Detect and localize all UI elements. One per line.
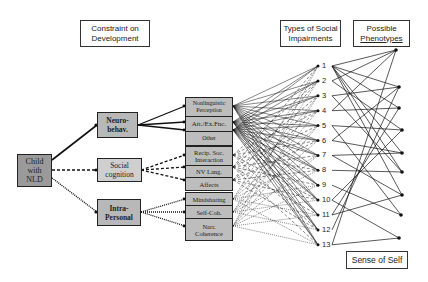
constraint-line: Neuro- bbox=[106, 116, 128, 125]
root-line: NLD bbox=[26, 175, 42, 184]
header-possible-phenotypes: Possible Phenotypes bbox=[353, 20, 410, 47]
subdomain-line: Perception bbox=[186, 107, 232, 114]
impairment-number: 6 bbox=[322, 136, 326, 145]
impairment-number: 12 bbox=[322, 225, 330, 234]
subdomain-recip-soc-interaction: Recip. Soc. Interaction bbox=[186, 147, 232, 166]
neuro-subdomain-group: Nonlinguistic Perception Att./Ex.Fnc. Ot… bbox=[185, 97, 233, 146]
impairment-number: 5 bbox=[322, 121, 326, 130]
impairment-number: 3 bbox=[322, 91, 326, 100]
subdomain-line: Interaction bbox=[186, 156, 232, 163]
header-line: Types of Social bbox=[281, 24, 340, 34]
subdomain-line: Other bbox=[186, 135, 232, 142]
subdomain-self-coh: Self-Coh. bbox=[186, 206, 232, 219]
subdomain-line: Coherence bbox=[186, 230, 232, 237]
constraint-line: Personal bbox=[105, 213, 133, 222]
child-with-nld-box: Child with NLD bbox=[17, 154, 52, 187]
header-line: Impairments bbox=[281, 34, 340, 44]
subdomain-other: Other bbox=[186, 132, 232, 145]
neuro-behav-box: Neuro- behav. bbox=[97, 112, 138, 138]
subdomain-att-ex-fnc: Att./Ex.Fnc. bbox=[186, 117, 232, 132]
social-subdomain-group: Recip. Soc. Interaction NV Lang. Affects bbox=[185, 146, 233, 191]
impairment-number: 7 bbox=[322, 150, 326, 159]
sense-of-self-label: Sense of Self bbox=[347, 255, 407, 265]
social-cognition-box: Social cognition bbox=[97, 158, 142, 182]
header-types-of-social-impairments: Types of Social Impairments bbox=[280, 20, 341, 47]
subdomain-line: Mindsharing bbox=[186, 196, 232, 203]
header-constraint-on-development: Constraint on Development bbox=[80, 20, 150, 47]
subdomain-affects: Affects bbox=[186, 178, 232, 190]
impairment-number: 13 bbox=[322, 240, 330, 249]
constraint-line: behav. bbox=[107, 125, 128, 134]
subdomain-nonlinguistic-perception: Nonlinguistic Perception bbox=[186, 98, 232, 117]
header-line: Development bbox=[81, 34, 149, 44]
subdomain-mindsharing: Mindsharing bbox=[186, 193, 232, 206]
intra-subdomain-group: Mindsharing Self-Coh. Narr. Coherence bbox=[185, 192, 233, 241]
subdomain-line: Self-Coh. bbox=[186, 209, 232, 216]
intra-personal-box: Intra- Personal bbox=[97, 199, 141, 226]
constraint-line: cognition bbox=[105, 170, 133, 179]
constraint-line: Intra- bbox=[109, 204, 128, 213]
root-line: Child bbox=[26, 157, 44, 166]
impairment-number: 11 bbox=[322, 210, 330, 219]
sense-of-self-box: Sense of Self bbox=[346, 251, 408, 269]
subdomain-nv-lang: NV Lang. bbox=[186, 166, 232, 178]
impairment-number: 2 bbox=[322, 76, 326, 85]
impairment-number: 9 bbox=[322, 180, 326, 189]
subdomain-line: Narr. bbox=[186, 223, 232, 230]
subdomain-line: Nonlinguistic bbox=[186, 100, 232, 107]
subdomain-line: Affects bbox=[186, 181, 232, 188]
root-line: with bbox=[27, 166, 41, 175]
header-line: Phenotypes bbox=[354, 34, 409, 44]
impairment-number: 10 bbox=[322, 195, 330, 204]
diagram-canvas: Constraint on Development Types of Socia… bbox=[0, 0, 428, 282]
impairment-number: 4 bbox=[322, 106, 326, 115]
subdomain-narr-coherence: Narr. Coherence bbox=[186, 219, 232, 240]
header-line: Possible bbox=[354, 24, 409, 34]
constraint-line: Social bbox=[110, 161, 129, 170]
header-line: Constraint on bbox=[81, 24, 149, 34]
subdomain-line: Recip. Soc. bbox=[186, 149, 232, 156]
subdomain-line: Att./Ex.Fnc. bbox=[186, 121, 232, 128]
subdomain-line: NV Lang. bbox=[186, 168, 232, 175]
impairment-number: 1 bbox=[322, 61, 326, 70]
impairment-number: 8 bbox=[322, 165, 326, 174]
